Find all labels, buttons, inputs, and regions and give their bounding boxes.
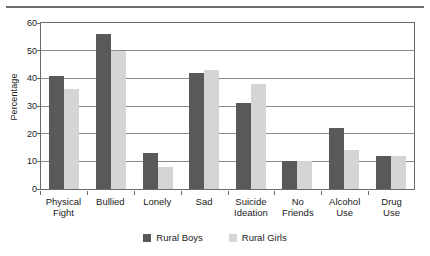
bar xyxy=(204,70,219,189)
bar xyxy=(297,161,312,189)
bar-group xyxy=(88,23,135,189)
x-label-line: Lonely xyxy=(143,196,171,207)
bar-group xyxy=(134,23,181,189)
x-tick-mark xyxy=(40,191,41,195)
legend-label: Rural Girls xyxy=(242,232,287,243)
x-tick-mark xyxy=(368,191,369,195)
x-axis-category-label: Sad xyxy=(181,191,228,218)
y-axis-tick-label: 50 xyxy=(0,46,37,56)
x-tick-mark xyxy=(87,191,88,195)
x-tick-mark xyxy=(321,191,322,195)
bar xyxy=(189,73,204,189)
x-axis-category-label: Bullied xyxy=(87,191,134,218)
x-axis-category-label: SuicideIdeation xyxy=(228,191,275,218)
bar xyxy=(282,161,297,189)
x-label-line: Bullied xyxy=(96,196,125,207)
bar xyxy=(49,76,64,189)
plot-area: 0102030405060 xyxy=(40,22,415,190)
x-axis-category-label: NoFriends xyxy=(274,191,321,218)
x-tick-mark xyxy=(228,191,229,195)
y-axis-tick-label: 40 xyxy=(0,73,37,83)
x-label-line: Fight xyxy=(40,207,87,218)
bar xyxy=(236,103,251,189)
x-label-line: Sad xyxy=(196,196,213,207)
x-label-line: Drug xyxy=(381,196,402,207)
y-axis-tick-label: 0 xyxy=(0,184,37,194)
bar xyxy=(376,156,391,189)
x-tick-mark xyxy=(181,191,182,195)
bar-group xyxy=(367,23,414,189)
bar xyxy=(329,128,344,189)
bar-group xyxy=(181,23,228,189)
bar xyxy=(143,153,158,189)
bar xyxy=(96,34,111,189)
x-label-line: Alcohol xyxy=(329,196,360,207)
x-label-line: Use xyxy=(321,207,368,218)
legend-label: Rural Boys xyxy=(156,232,202,243)
bar xyxy=(111,51,126,189)
bar-chart-figure: Percentage 0102030405060 PhysicalFightBu… xyxy=(0,0,430,256)
x-label-line: Use xyxy=(368,207,415,218)
bar-group xyxy=(321,23,368,189)
x-label-line: Physical xyxy=(46,196,81,207)
x-label-line: Ideation xyxy=(228,207,275,218)
x-axis-labels: PhysicalFightBulliedLonelySadSuicideIdea… xyxy=(40,191,415,218)
bar-groups xyxy=(41,23,414,189)
chart-legend: Rural BoysRural Girls xyxy=(0,232,430,243)
x-label-line: Friends xyxy=(274,207,321,218)
x-label-line: Suicide xyxy=(235,196,266,207)
y-axis-tick-label: 20 xyxy=(0,129,37,139)
bar xyxy=(391,156,406,189)
x-tick-mark xyxy=(274,191,275,195)
y-axis-tick-label: 30 xyxy=(0,101,37,111)
x-axis-category-label: DrugUse xyxy=(368,191,415,218)
bar-group xyxy=(228,23,275,189)
legend-item: Rural Girls xyxy=(229,232,287,243)
x-axis-category-label: PhysicalFight xyxy=(40,191,87,218)
bar xyxy=(158,167,173,189)
bar-group xyxy=(41,23,88,189)
bar xyxy=(251,84,266,189)
x-tick-mark xyxy=(134,191,135,195)
y-axis-tick-label: 10 xyxy=(0,156,37,166)
legend-item: Rural Boys xyxy=(143,232,202,243)
x-axis-category-label: Lonely xyxy=(134,191,181,218)
bar-group xyxy=(274,23,321,189)
x-label-line: No xyxy=(292,196,304,207)
bar xyxy=(344,150,359,189)
legend-swatch-icon xyxy=(143,234,151,242)
x-axis-category-label: AlcoholUse xyxy=(321,191,368,218)
y-axis-tick-label: 60 xyxy=(0,18,37,28)
bar xyxy=(64,89,79,189)
legend-swatch-icon xyxy=(229,234,237,242)
